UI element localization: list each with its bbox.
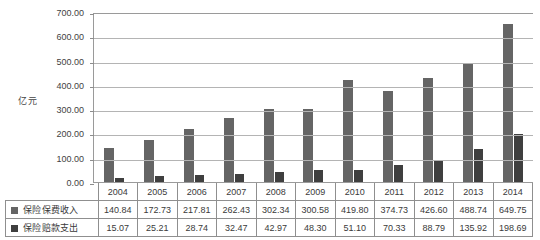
bar-group [94,14,134,182]
data-cell: 419.80 [335,201,375,219]
data-cell: 262.43 [217,201,257,219]
y-axis-tick-label: 500.00 [56,57,84,67]
bar-group [214,14,254,182]
plot-area [93,13,533,183]
bar-series-1[interactable] [184,129,194,182]
data-cell: 25.21 [138,219,178,237]
y-axis-tick-label: 600.00 [56,32,84,42]
bar-group [134,14,174,182]
bar-series-2[interactable] [474,149,483,182]
y-axis-tick-label: 300.00 [56,105,84,115]
data-cell: 302.34 [256,201,296,219]
bar-series-1[interactable] [104,148,114,182]
category-header-cell: 2010 [335,183,375,201]
data-cell: 48.30 [296,219,336,237]
gridline [94,63,533,64]
bar-group [453,14,493,182]
data-cell: 88.79 [414,219,454,237]
legend-label: 保险赔款支出 [23,223,79,233]
bars-layer [94,14,533,182]
data-cell: 374.73 [375,201,415,219]
gridline [94,135,533,136]
bar-series-2[interactable] [314,170,323,182]
data-cell: 28.74 [177,219,217,237]
bar-group [254,14,294,182]
data-cell: 426.60 [414,201,454,219]
bar-series-2[interactable] [235,174,244,182]
table-corner-cell [6,183,99,201]
data-table: 2004200520062007200820092010201120122013… [5,183,533,237]
category-header-cell: 2009 [296,183,336,201]
bar-series-2[interactable] [195,175,204,182]
axis-tick-mark [90,38,94,39]
bar-series-2[interactable] [155,176,164,182]
bar-group [333,14,373,182]
table-row: 保险赔款支出15.0725.2128.7432.4742.9748.3051.1… [6,219,533,237]
bar-series-2[interactable] [394,165,403,182]
y-axis-tick-label: 700.00 [56,8,84,18]
bar-series-1[interactable] [423,78,433,182]
axis-tick-mark [90,111,94,112]
gridline [94,87,533,88]
bar-series-1[interactable] [303,109,313,182]
category-header-cell: 2005 [138,183,178,201]
data-cell: 15.07 [98,219,138,237]
bar-group [413,14,453,182]
category-header-cell: 2013 [454,183,494,201]
table-row: 保险保费收入140.84172.73217.81262.43302.34300.… [6,201,533,219]
data-cell: 488.74 [454,201,494,219]
category-header-cell: 2004 [98,183,138,201]
bar-series-1[interactable] [383,91,393,182]
legend-item-series-1[interactable]: 保险保费收入 [6,201,99,219]
bar-group [493,14,533,182]
bar-series-2[interactable] [354,170,363,182]
category-header-cell: 2014 [493,183,533,201]
bar-series-1[interactable] [264,109,274,182]
data-cell: 32.47 [217,219,257,237]
y-axis-tick-labels: 700.00600.00500.00400.00300.00200.00100.… [0,13,88,183]
bar-series-1[interactable] [503,24,513,182]
data-cell: 172.73 [138,201,178,219]
chart-container: 亿元 700.00600.00500.00400.00300.00200.001… [0,0,540,240]
data-cell: 300.58 [296,201,336,219]
bar-group [373,14,413,182]
legend-item-series-2[interactable]: 保险赔款支出 [6,219,99,237]
data-cell: 135.92 [454,219,494,237]
bar-group [294,14,334,182]
bar-series-1[interactable] [224,118,234,182]
data-cell: 198.69 [493,219,533,237]
category-header-cell: 2006 [177,183,217,201]
bar-series-1[interactable] [144,140,154,182]
gridline [94,111,533,112]
axis-tick-mark [90,160,94,161]
gridline [94,160,533,161]
gridline [94,38,533,39]
data-cell: 649.75 [493,201,533,219]
bar-group [174,14,214,182]
category-header-cell: 2008 [256,183,296,201]
axis-tick-mark [90,63,94,64]
category-header-cell: 2007 [217,183,257,201]
data-cell: 51.10 [335,219,375,237]
bar-series-2[interactable] [115,178,124,182]
legend-swatch-icon [11,207,18,214]
data-cell: 42.97 [256,219,296,237]
legend-swatch-icon [11,225,18,232]
bar-series-2[interactable] [275,172,284,182]
table-row-years: 2004200520062007200820092010201120122013… [6,183,533,201]
bar-series-2[interactable] [514,134,523,182]
category-header-cell: 2011 [375,183,415,201]
y-axis-tick-label: 200.00 [56,129,84,139]
bar-series-1[interactable] [463,63,473,182]
y-axis-tick-label: 100.00 [56,154,84,164]
bar-series-2[interactable] [434,160,443,182]
axis-tick-mark [90,14,94,15]
data-cell: 217.81 [177,201,217,219]
axis-tick-mark [90,135,94,136]
legend-label: 保险保费收入 [23,205,79,215]
category-header-cell: 2012 [414,183,454,201]
y-axis-tick-label: 400.00 [56,81,84,91]
data-cell: 140.84 [98,201,138,219]
data-cell: 70.33 [375,219,415,237]
bar-series-1[interactable] [343,80,353,182]
